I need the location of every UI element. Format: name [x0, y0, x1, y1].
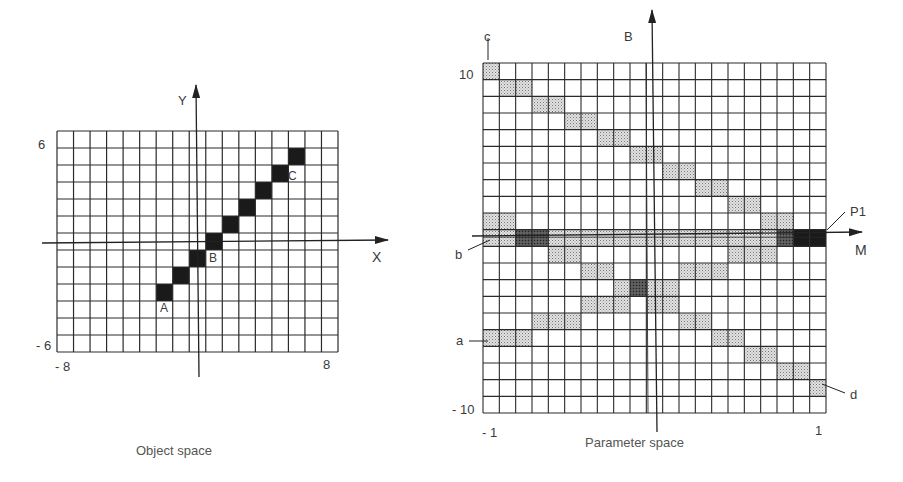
b-min-label: - 10	[452, 403, 474, 416]
line-label-d: d	[850, 388, 857, 401]
b-axis-label: B	[624, 30, 633, 43]
line-label-a: a	[456, 334, 463, 347]
m-axis-label: M	[855, 243, 867, 257]
m-max-label: 1	[815, 424, 822, 437]
line-label-b: b	[455, 248, 462, 261]
parameter-space-caption: Parameter space	[585, 436, 684, 449]
line-label-c: c	[484, 30, 491, 43]
b-max-label: 10	[459, 68, 473, 81]
peak-label-p1: P1	[850, 205, 866, 218]
m-min-label: - 1	[482, 426, 497, 439]
